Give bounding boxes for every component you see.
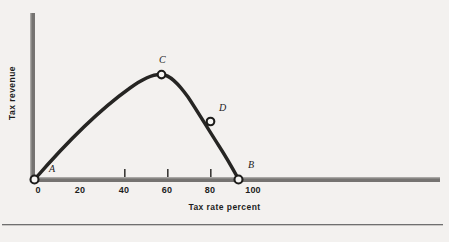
- bottom-divider-shadow: [2, 225, 443, 226]
- x-tick-60: [167, 169, 169, 177]
- x-tick-label-20: 20: [65, 185, 95, 195]
- point-marker-C: [158, 71, 166, 79]
- x-tick-label-40: 40: [109, 185, 139, 195]
- y-axis-title: Tax revenue: [7, 58, 17, 128]
- x-tick-40: [124, 169, 126, 177]
- point-label-D: D: [219, 102, 226, 113]
- x-tick-label-0: 0: [23, 185, 53, 195]
- x-tick-label-80: 80: [195, 185, 225, 195]
- point-label-B: B: [248, 159, 254, 170]
- x-axis-title: Tax rate percent: [0, 202, 449, 212]
- x-tick-80: [210, 169, 212, 177]
- point-label-C: C: [159, 54, 166, 65]
- laffer-curve-figure: A C D B 0 20 40 60 80 100 Tax rate perce…: [0, 0, 449, 242]
- curve-point-markers: [31, 71, 243, 184]
- point-label-A: A: [49, 163, 55, 174]
- point-marker-A: [31, 176, 39, 184]
- point-marker-B: [235, 176, 243, 184]
- x-tick-label-60: 60: [152, 185, 182, 195]
- x-tick-label-100: 100: [238, 185, 268, 195]
- laffer-curve-path: [35, 74, 239, 179]
- point-marker-D: [207, 118, 215, 126]
- y-axis-highlight: [30, 13, 31, 182]
- x-tick-marks: [124, 169, 212, 177]
